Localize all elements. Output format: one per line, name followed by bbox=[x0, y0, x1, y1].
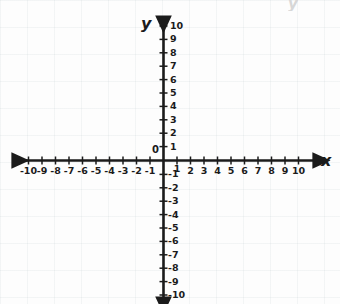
x-tick-label: -6 bbox=[77, 166, 88, 176]
y-tick-label: -6 bbox=[168, 237, 179, 247]
y-tick-label: -7 bbox=[168, 250, 179, 260]
y-tick-label: 8 bbox=[170, 48, 177, 58]
y-tick-label: -5 bbox=[168, 223, 179, 233]
x-tick-label: -9 bbox=[37, 166, 48, 176]
x-tick-label: 7 bbox=[255, 166, 262, 176]
x-tick-label: 3 bbox=[201, 166, 208, 176]
y-tick-label: 4 bbox=[170, 102, 177, 112]
y-tick-label: -2 bbox=[168, 183, 179, 193]
x-tick-label: -10 bbox=[20, 166, 37, 176]
y-tick-label: 1 bbox=[170, 142, 177, 152]
y-tick-label: 7 bbox=[170, 61, 177, 71]
x-tick-label: 9 bbox=[282, 166, 289, 176]
y-tick-label: 2 bbox=[170, 128, 177, 138]
x-tick-label: -4 bbox=[104, 166, 115, 176]
x-tick-label: -8 bbox=[50, 166, 61, 176]
coordinate-plane-figure: y y x 0 -10 -9 -8 -7 -6 -5 -4 -3 -2 -1 1… bbox=[0, 0, 340, 304]
y-tick-label: 9 bbox=[170, 35, 177, 45]
x-tick-label: -3 bbox=[118, 166, 129, 176]
x-tick-label: -2 bbox=[131, 166, 142, 176]
origin-label: 0 bbox=[152, 144, 159, 155]
y-tick-label: 10 bbox=[170, 21, 183, 31]
x-tick-label: 10 bbox=[292, 166, 305, 176]
y-tick-label: -10 bbox=[168, 290, 185, 300]
y-tick-label: -3 bbox=[168, 196, 179, 206]
y-tick-label: 5 bbox=[170, 88, 177, 98]
y-tick-label: -4 bbox=[168, 210, 179, 220]
x-tick-label: 8 bbox=[268, 166, 275, 176]
y-tick-label: 6 bbox=[170, 75, 177, 85]
x-axis-title: x bbox=[321, 151, 331, 170]
x-tick-label: 6 bbox=[241, 166, 248, 176]
y-tick-label: 3 bbox=[170, 115, 177, 125]
x-tick-label: 4 bbox=[214, 166, 221, 176]
y-tick-label: -8 bbox=[168, 263, 179, 273]
x-tick-label: 2 bbox=[187, 166, 194, 176]
x-tick-label: -7 bbox=[64, 166, 75, 176]
x-tick-label: 5 bbox=[228, 166, 235, 176]
x-tick-label: -5 bbox=[91, 166, 102, 176]
y-axis-title: y bbox=[141, 14, 151, 33]
y-tick-label: -1 bbox=[168, 170, 179, 180]
y-tick-label: -9 bbox=[168, 277, 179, 287]
x-tick-label: -1 bbox=[145, 166, 156, 176]
corner-artifact-glyph: y bbox=[288, 0, 298, 11]
